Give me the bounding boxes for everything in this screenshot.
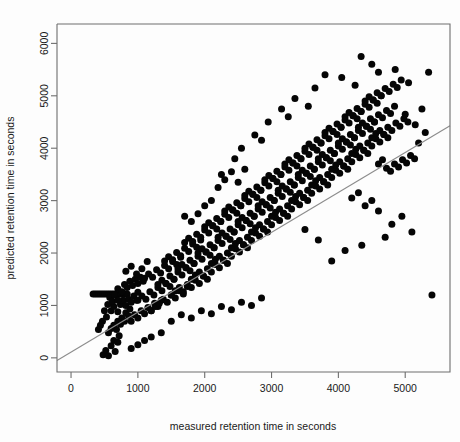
data-point [322, 71, 329, 78]
data-point [303, 170, 310, 177]
data-point [311, 166, 318, 173]
data-point [375, 69, 382, 76]
data-point [277, 171, 284, 178]
data-point [128, 318, 135, 325]
data-point [195, 210, 202, 217]
data-point [348, 158, 355, 165]
data-point [328, 174, 335, 181]
data-point [196, 280, 203, 287]
data-point [231, 155, 238, 162]
data-point [237, 202, 244, 209]
data-point [114, 297, 121, 304]
data-point [218, 303, 225, 310]
data-point [150, 291, 157, 298]
data-point [182, 264, 189, 271]
data-point [408, 229, 415, 236]
data-point [403, 159, 410, 166]
data-point [388, 221, 395, 228]
data-point [138, 265, 145, 272]
data-point [241, 166, 248, 173]
data-point [418, 105, 425, 112]
data-point [238, 145, 245, 152]
data-point [379, 156, 386, 163]
data-point [235, 179, 242, 186]
data-point [243, 217, 250, 224]
data-point [368, 143, 375, 150]
data-point [318, 139, 325, 146]
data-point [398, 77, 405, 84]
data-point [330, 128, 337, 135]
data-point [339, 146, 346, 153]
data-point [348, 195, 355, 202]
data-point [185, 248, 192, 255]
data-point [368, 61, 375, 68]
data-point [249, 191, 256, 198]
data-point [205, 230, 212, 237]
data-point [398, 213, 405, 220]
plot-canvas: 010002000300040005000 010002000300040005… [0, 0, 460, 442]
x-axis-title: measured retention time in seconds [170, 420, 336, 432]
data-point [370, 96, 377, 103]
data-point [223, 233, 230, 240]
data-point [239, 224, 246, 231]
data-point [133, 270, 140, 277]
data-point [315, 236, 322, 243]
data-point [343, 138, 350, 145]
x-tick-label: 0 [68, 382, 74, 394]
data-point [221, 176, 228, 183]
data-point [358, 108, 365, 115]
data-point [356, 154, 363, 161]
x-tick-label: 1000 [126, 382, 150, 394]
data-point [165, 265, 172, 272]
data-point [299, 177, 306, 184]
data-point [351, 134, 358, 141]
data-point [199, 256, 206, 263]
data-point [257, 187, 264, 194]
data-point [178, 272, 185, 279]
data-point [203, 248, 210, 255]
y-tick-label: 0 [38, 355, 50, 361]
data-point [128, 263, 135, 270]
y-tick-label: 4000 [38, 136, 50, 160]
data-point [269, 175, 276, 182]
data-point [311, 84, 318, 91]
data-point [101, 307, 108, 314]
data-point [411, 155, 418, 162]
data-point [238, 299, 245, 306]
data-point [305, 151, 312, 158]
data-point [265, 182, 272, 189]
data-point [260, 225, 267, 232]
data-point [363, 123, 370, 130]
data-point [326, 135, 333, 142]
data-point [338, 124, 345, 131]
data-point [366, 104, 373, 111]
data-point [362, 202, 369, 209]
data-point [168, 318, 175, 325]
data-point [371, 119, 378, 126]
data-point [169, 256, 176, 263]
data-point [346, 120, 353, 127]
data-point [231, 229, 238, 236]
data-point [368, 197, 375, 204]
data-point [141, 310, 148, 317]
data-point [352, 82, 359, 89]
data-point [320, 178, 327, 185]
data-point [340, 163, 347, 170]
data-point [375, 208, 382, 215]
data-point [209, 222, 216, 229]
data-point [105, 352, 112, 359]
data-point [394, 84, 401, 91]
data-point [376, 138, 383, 145]
data-point [285, 113, 292, 120]
data-point [228, 306, 235, 313]
data-point [142, 296, 149, 303]
data-point [112, 348, 119, 355]
data-point [328, 257, 335, 264]
data-point [114, 339, 121, 346]
data-point [280, 210, 287, 217]
x-tick-label: 5000 [394, 382, 418, 394]
data-point [217, 218, 224, 225]
data-point [387, 168, 394, 175]
data-point [331, 150, 338, 157]
data-point [248, 302, 255, 309]
